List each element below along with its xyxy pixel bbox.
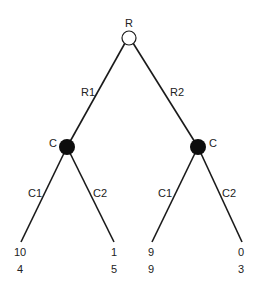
- payoff-leaf2-bottom: 5: [111, 263, 117, 275]
- payoff-leaf3-top: 9: [148, 246, 154, 258]
- branch-label-right-c1: C1: [158, 187, 172, 199]
- payoff-leaf1-bottom: 4: [17, 263, 23, 275]
- right-node-label: C: [209, 137, 217, 149]
- branch-label-left-c2: C2: [93, 187, 107, 199]
- branch-label-right-c2: C2: [222, 187, 236, 199]
- payoff-leaf1-top: 10: [14, 246, 26, 258]
- payoff-leaf4-bottom: 3: [238, 263, 244, 275]
- right-decision-node-filled-circle: [190, 139, 206, 155]
- branch-label-r1: R1: [81, 86, 95, 98]
- payoff-leaf3-bottom: 9: [148, 263, 154, 275]
- root-label: R: [125, 17, 133, 29]
- root-node-open-circle: [122, 31, 136, 45]
- payoff-leaf2-top: 1: [111, 246, 117, 258]
- branch-label-r2: R2: [170, 86, 184, 98]
- left-decision-node-filled-circle: [59, 139, 75, 155]
- game-tree-diagram: R C C R1 R2 C1 C2 C1 C2 10 4 1 5 9 9 0 3: [0, 0, 258, 290]
- edge-r1: [67, 43, 125, 147]
- payoff-leaf4-top: 0: [238, 246, 244, 258]
- edge-r2: [133, 43, 198, 147]
- branch-label-left-c1: C1: [28, 187, 42, 199]
- left-node-label: C: [49, 137, 57, 149]
